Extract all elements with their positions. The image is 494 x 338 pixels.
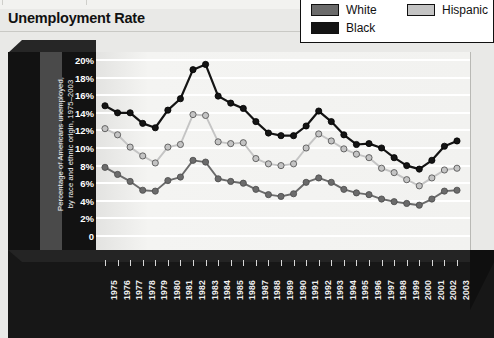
data-point[interactable] (429, 196, 435, 202)
data-point[interactable] (391, 155, 397, 161)
legend-item-hispanic[interactable]: Hispanic (407, 3, 488, 17)
data-point[interactable] (429, 157, 435, 163)
data-point[interactable] (441, 167, 447, 173)
data-point[interactable] (454, 187, 460, 193)
legend-item-white[interactable]: White (311, 3, 377, 17)
data-point[interactable] (140, 187, 146, 193)
data-point[interactable] (378, 165, 384, 171)
data-point[interactable] (328, 119, 334, 125)
data-point[interactable] (177, 96, 183, 102)
data-point[interactable] (102, 164, 108, 170)
data-point[interactable] (290, 161, 296, 167)
x-tick-mark (319, 260, 320, 266)
data-point[interactable] (215, 139, 221, 145)
data-point[interactable] (378, 145, 384, 151)
x-tick-mark (231, 260, 232, 266)
data-point[interactable] (152, 160, 158, 166)
data-point[interactable] (404, 177, 410, 183)
data-point[interactable] (328, 138, 334, 144)
data-point[interactable] (278, 193, 284, 199)
data-point[interactable] (366, 141, 372, 147)
data-point[interactable] (102, 126, 108, 132)
data-point[interactable] (114, 132, 120, 138)
data-point[interactable] (140, 153, 146, 159)
data-point[interactable] (202, 112, 208, 118)
data-point[interactable] (353, 141, 359, 147)
data-point[interactable] (102, 103, 108, 109)
data-point[interactable] (228, 100, 234, 106)
data-point[interactable] (228, 141, 234, 147)
data-point[interactable] (190, 67, 196, 73)
y-tick-label: 12% (56, 125, 94, 136)
data-point[interactable] (253, 155, 259, 161)
data-point[interactable] (140, 120, 146, 126)
data-point[interactable] (454, 138, 460, 144)
data-point[interactable] (240, 105, 246, 111)
data-point[interactable] (152, 125, 158, 131)
data-point[interactable] (240, 140, 246, 146)
data-point[interactable] (441, 143, 447, 149)
plot-panel (96, 52, 470, 250)
legend-item-black[interactable]: Black (311, 21, 375, 35)
x-tick-label: 1981 (184, 280, 194, 300)
data-point[interactable] (303, 123, 309, 129)
data-point[interactable] (290, 133, 296, 139)
data-point[interactable] (316, 131, 322, 137)
data-point[interactable] (165, 107, 171, 113)
data-point[interactable] (240, 180, 246, 186)
data-point[interactable] (404, 200, 410, 206)
data-point[interactable] (429, 175, 435, 181)
data-point[interactable] (127, 144, 133, 150)
data-point[interactable] (265, 192, 271, 198)
data-point[interactable] (127, 110, 133, 116)
data-point[interactable] (303, 145, 309, 151)
data-point[interactable] (177, 141, 183, 147)
data-point[interactable] (215, 93, 221, 99)
data-point[interactable] (341, 146, 347, 152)
data-point[interactable] (353, 151, 359, 157)
data-point[interactable] (202, 159, 208, 165)
data-point[interactable] (366, 155, 372, 161)
data-point[interactable] (353, 190, 359, 196)
data-point[interactable] (228, 178, 234, 184)
data-point[interactable] (316, 108, 322, 114)
data-point[interactable] (114, 171, 120, 177)
data-point[interactable] (265, 130, 271, 136)
data-point[interactable] (190, 111, 196, 117)
data-point[interactable] (152, 188, 158, 194)
x-tick-mark (105, 260, 106, 266)
data-point[interactable] (215, 176, 221, 182)
data-point[interactable] (290, 191, 296, 197)
data-point[interactable] (253, 119, 259, 125)
y-tick-label: 4% (56, 195, 94, 206)
data-point[interactable] (278, 133, 284, 139)
data-point[interactable] (316, 175, 322, 181)
data-point[interactable] (253, 186, 259, 192)
data-point[interactable] (328, 179, 334, 185)
data-point[interactable] (391, 170, 397, 176)
data-point[interactable] (454, 165, 460, 171)
data-point[interactable] (391, 199, 397, 205)
data-point[interactable] (165, 177, 171, 183)
data-point[interactable] (441, 188, 447, 194)
data-point[interactable] (366, 192, 372, 198)
data-point[interactable] (190, 157, 196, 163)
x-tick-label: 1996 (373, 280, 383, 300)
x-tick-mark (382, 260, 383, 266)
data-point[interactable] (416, 183, 422, 189)
data-point[interactable] (341, 186, 347, 192)
data-point[interactable] (278, 163, 284, 169)
data-point[interactable] (114, 110, 120, 116)
data-point[interactable] (127, 178, 133, 184)
data-point[interactable] (177, 174, 183, 180)
data-point[interactable] (404, 163, 410, 169)
data-point[interactable] (165, 144, 171, 150)
data-point[interactable] (378, 196, 384, 202)
data-point[interactable] (416, 202, 422, 208)
x-tick-label: 1993 (335, 280, 345, 300)
data-point[interactable] (303, 179, 309, 185)
data-point[interactable] (341, 132, 347, 138)
data-point[interactable] (202, 61, 208, 67)
data-point[interactable] (416, 166, 422, 172)
data-point[interactable] (265, 161, 271, 167)
